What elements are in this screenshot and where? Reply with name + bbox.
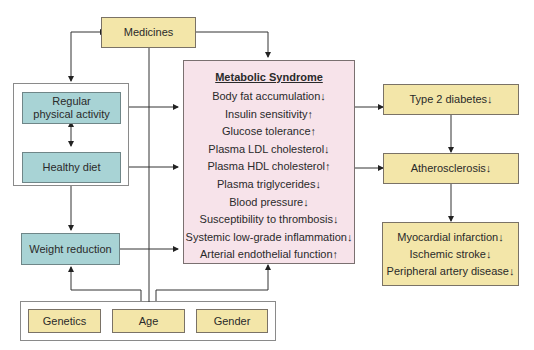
arrow-medicines-lifestyle — [71, 32, 101, 81]
physical-activity-box: Regular physical activity — [22, 92, 121, 124]
metabolic-syndrome-heading: Metabolic Syndrome — [215, 71, 323, 84]
genetics-box: Genetics — [28, 309, 101, 333]
ms-item: Plasma triglycerides↓ — [217, 176, 321, 194]
metabolic-syndrome-box: Metabolic Syndrome Body fat accumulation… — [183, 60, 355, 264]
ms-item: Insulin sensitivity↑ — [225, 106, 313, 124]
arrow-factors-ms — [156, 265, 268, 301]
gender-label: Gender — [214, 315, 251, 328]
medicines-label: Medicines — [124, 26, 174, 39]
ms-item: Plasma HDL cholesterol↑ — [207, 158, 330, 176]
type2-diabetes-label: Type 2 diabetes↓ — [409, 93, 492, 106]
atherosclerosis-box: Atherosclerosis↓ — [383, 153, 519, 184]
atherosclerosis-label: Atherosclerosis↓ — [411, 162, 492, 175]
outcome-item: Myocardial infarction↓ — [397, 229, 503, 246]
medicines-box: Medicines — [101, 17, 196, 48]
weight-reduction-label: Weight reduction — [29, 243, 111, 256]
gender-box: Gender — [196, 309, 268, 333]
weight-reduction-box: Weight reduction — [21, 233, 120, 265]
type2-diabetes-box: Type 2 diabetes↓ — [383, 84, 519, 115]
healthy-diet-label: Healthy diet — [42, 161, 100, 174]
healthy-diet-box: Healthy diet — [22, 152, 121, 183]
ms-item: Plasma LDL cholesterol↓ — [208, 141, 329, 159]
cardiovascular-outcomes-box: Myocardial infarction↓ Ischemic stroke↓ … — [382, 222, 519, 286]
ms-item: Glucose tolerance↑ — [222, 123, 316, 141]
ms-item: Arterial endothelial function↑ — [200, 246, 338, 264]
arrow-factors-weight — [71, 267, 141, 301]
outcome-item: Ischemic stroke↓ — [410, 246, 492, 263]
age-box: Age — [112, 309, 185, 333]
physical-activity-label: Regular physical activity — [32, 95, 112, 121]
age-label: Age — [139, 315, 159, 328]
outcome-item: Peripheral artery disease↓ — [387, 263, 515, 280]
ms-item: Susceptibility to thrombosis↓ — [200, 211, 339, 229]
arrow-medicines-ms — [196, 32, 268, 57]
ms-item: Blood pressure↓ — [229, 194, 309, 212]
ms-item: Systemic low-grade inflammation↓ — [186, 229, 353, 247]
ms-item: Body fat accumulation↓ — [212, 88, 326, 106]
genetics-label: Genetics — [43, 315, 86, 328]
